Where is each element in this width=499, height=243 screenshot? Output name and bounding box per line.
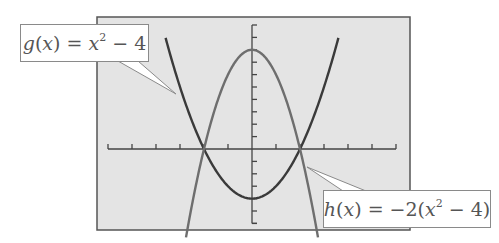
h-fn-name: h (324, 198, 336, 220)
g-tail: − 4 (106, 32, 146, 54)
h-function-label: h(x) = −2(x2 − 4) (323, 190, 491, 228)
h-base: x (425, 198, 436, 220)
g-fn-name: g (23, 32, 35, 54)
h-pre: = −2( (362, 198, 425, 220)
g-base: x (88, 32, 99, 54)
h-tail: − 4) (443, 198, 491, 220)
g-exponent: 2 (99, 31, 106, 44)
h-var: x (343, 198, 354, 220)
g-var: x (42, 32, 53, 54)
g-function-label: g(x) = x2 − 4 (20, 24, 149, 62)
h-exponent: 2 (436, 197, 443, 210)
